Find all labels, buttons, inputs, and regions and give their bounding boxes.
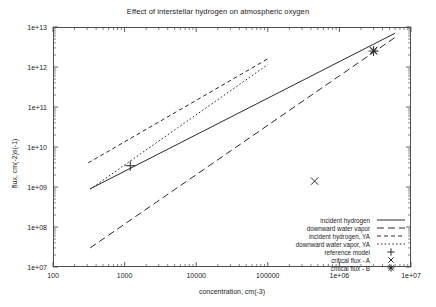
y-axis-tick-label: 1e+12	[3, 64, 47, 71]
legend-item: downward water vapor, YA	[231, 240, 407, 248]
y-axis-tick-label: 1e+07	[3, 264, 47, 271]
legend-item-key	[375, 248, 407, 256]
legend-item-label: downward water vapor	[307, 225, 375, 232]
legend-item-label: critical flux - A	[331, 257, 375, 264]
legend-item-label: incident hydrogen	[320, 217, 375, 224]
chart-title: Effect of interstellar hydrogen on atmos…	[0, 7, 436, 16]
chart-container: Effect of interstellar hydrogen on atmos…	[0, 0, 436, 307]
y-axis-tick-label: 1e+09	[3, 184, 47, 191]
legend-item: downward water vapor	[231, 224, 407, 232]
y-axis-title: flux, cm(-2)s(-1)	[11, 139, 18, 188]
legend-item-key	[375, 264, 407, 272]
x-axis-tick-label: 100000	[238, 272, 298, 279]
legend-item-key	[375, 216, 407, 224]
legend-item-key	[375, 232, 407, 240]
y-axis-tick-label: 1e+08	[3, 224, 47, 231]
chart-legend: incident hydrogendownward water vaporinc…	[231, 216, 407, 272]
legend-item-label: incident hydrogen, YA	[309, 233, 375, 240]
legend-item: reference model	[231, 248, 407, 256]
x-axis-tick-label: 10000	[166, 272, 226, 279]
legend-item-label: critical flux - B	[331, 265, 375, 272]
x-axis-tick-label: 1e+07	[381, 272, 436, 279]
legend-item: critical flux - A	[231, 256, 407, 264]
legend-item-key	[375, 240, 407, 248]
y-axis-tick-label: 1e+11	[3, 104, 47, 111]
x-axis-title: concentration, cm(-3)	[53, 288, 411, 295]
legend-item: incident hydrogen	[231, 216, 407, 224]
legend-item-key	[375, 256, 407, 264]
x-axis-tick-label: 1e+06	[309, 272, 369, 279]
legend-item-label: downward water vapor, YA	[296, 241, 375, 248]
legend-item: incident hydrogen, YA	[231, 232, 407, 240]
legend-item: critical flux - B	[231, 264, 407, 272]
y-axis-tick-label: 1e+13	[3, 24, 47, 31]
legend-item-key	[375, 224, 407, 232]
legend-item-label: reference model	[324, 249, 375, 256]
x-axis-tick-label: 100	[23, 272, 83, 279]
y-axis-tick-label: 1e+10	[3, 144, 47, 151]
x-axis-tick-label: 1000	[95, 272, 155, 279]
